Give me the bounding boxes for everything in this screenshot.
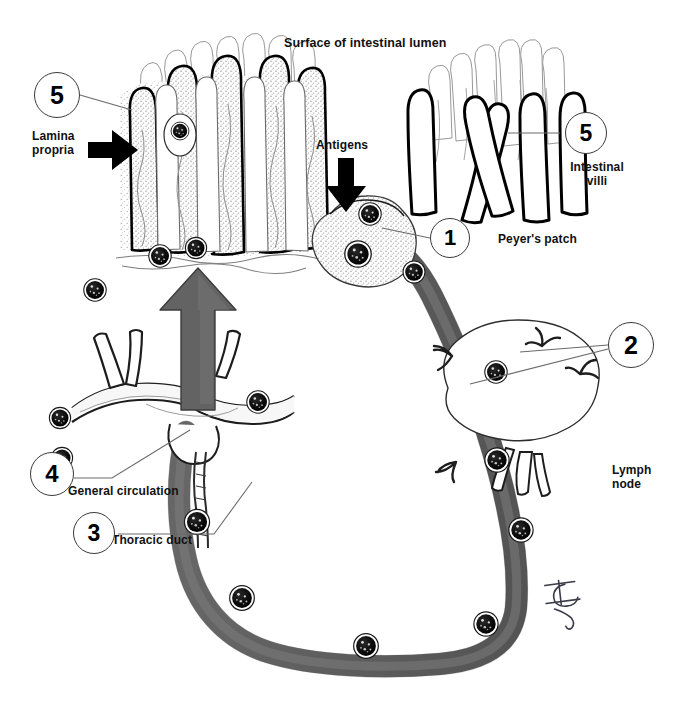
label-peyers-patch: Peyer's patch xyxy=(498,232,577,246)
label-thoracic-duct: Thoracic duct xyxy=(112,533,192,547)
figure-canvas: Surface of intestinal lumen Lamina propr… xyxy=(0,0,696,704)
label-lamina-propria: Lamina propria xyxy=(32,129,75,157)
page-title: Surface of intestinal lumen xyxy=(284,36,446,51)
label-lymph-node: Lymph node xyxy=(612,463,651,491)
callout-4-general-circulation[interactable]: 4 xyxy=(30,452,74,496)
label-intestinal-villi: Intestinal villi xyxy=(566,160,628,188)
label-general-circulation: General circulation xyxy=(68,484,179,498)
callout-5-lamina-propria[interactable]: 5 xyxy=(34,72,80,118)
right-villi-cluster xyxy=(408,40,587,223)
callout-2-lymph-node[interactable]: 2 xyxy=(608,322,654,368)
callout-3-thoracic-duct[interactable]: 3 xyxy=(73,512,115,554)
artist-signature xyxy=(538,568,598,634)
lymph-node xyxy=(434,320,599,496)
label-antigens: Antigens xyxy=(316,138,368,152)
callout-1-peyers-patch[interactable]: 1 xyxy=(430,218,470,258)
lymphocyte-group xyxy=(49,237,533,658)
callout-5-intestinal-villi[interactable]: 5 xyxy=(565,112,607,154)
